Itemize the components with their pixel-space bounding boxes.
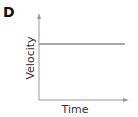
y-axis-label: Velocity bbox=[25, 36, 36, 79]
x-axis-label: Time bbox=[62, 104, 89, 115]
velocity-time-chart bbox=[0, 0, 138, 117]
x-axis-arrow-icon bbox=[123, 98, 129, 102]
y-axis-arrow-icon bbox=[37, 13, 41, 19]
